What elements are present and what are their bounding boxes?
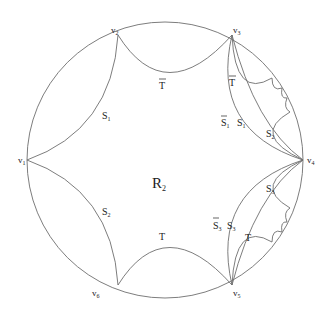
vertex-v5: v5 (233, 288, 241, 299)
vertex-v3: v3 (233, 25, 241, 36)
vertex-v6: v6 (92, 288, 100, 299)
label-top-tbar: T (159, 79, 166, 91)
scallop-5 (282, 222, 287, 232)
edge-v2-v1 (27, 35, 118, 160)
label-s1-left: S1 (102, 110, 111, 122)
svg-text:T: T (229, 77, 235, 88)
label-inner-s3-pair: S3 (227, 220, 236, 232)
edge-v1-v6 (27, 160, 118, 285)
label-inner-s1: S1 (237, 117, 246, 129)
label-inner-s1bar: S1 (221, 116, 230, 129)
edge-v5-v4-inner (232, 160, 303, 285)
arc-s2-inner (273, 112, 303, 160)
hyperbolic-disk-diagram: v2 v3 v4 v5 v6 v1 R2 T S1 S2 T T S1 S1 S… (0, 0, 328, 313)
label-s2-left: S2 (102, 206, 111, 218)
edge-v2-v3 (118, 35, 232, 73)
vertex-v2: v2 (111, 25, 119, 36)
edge-v6-v5 (118, 248, 232, 286)
svg-text:S1: S1 (221, 117, 230, 129)
label-t-bottom: T (159, 231, 165, 242)
arc-tbar-inner (232, 35, 272, 84)
region-label: R2 (152, 175, 166, 193)
label-inner-t: T (245, 232, 251, 243)
label-inner-s3bar: S3 (213, 218, 222, 232)
edge-v3-v4-inner (232, 35, 303, 160)
arc-s3-inner (273, 160, 303, 208)
svg-text:S3: S3 (213, 220, 222, 232)
disk-boundary (27, 22, 303, 298)
vertex-v4: v4 (307, 155, 315, 166)
svg-text:T: T (159, 80, 165, 91)
arc-t-inner (232, 236, 272, 285)
vertex-v1: v1 (18, 155, 26, 166)
edge-v5-v4 (228, 160, 303, 285)
edge-v3-v4 (228, 35, 303, 160)
scallop-2 (282, 88, 287, 98)
label-inner-tbar: T (229, 76, 236, 88)
